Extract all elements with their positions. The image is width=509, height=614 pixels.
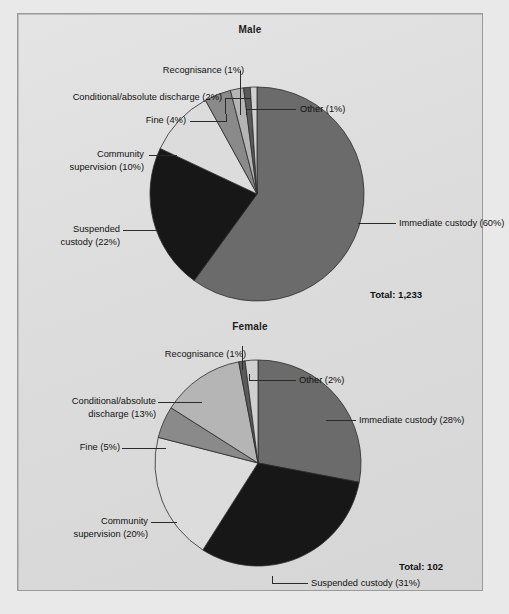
female-total: Total: 102 xyxy=(399,561,443,572)
male-chart-panel: Male Recognisance (1%) Conditional/absol… xyxy=(18,14,482,314)
male-leader-suspended xyxy=(123,230,157,231)
female-label-immediate: Immediate custody (28%) xyxy=(359,414,489,427)
male-leader-other-h xyxy=(246,109,296,110)
female-pie-svg xyxy=(154,359,362,567)
male-label-suspended-line2: custody (22%) xyxy=(61,237,120,247)
female-label-fine: Fine (5%) xyxy=(50,441,120,454)
male-leader-other-v xyxy=(246,109,247,115)
male-leader-community xyxy=(149,155,177,156)
female-leader-other-h xyxy=(249,380,296,381)
male-label-community-line2: supervision (10%) xyxy=(70,162,144,172)
female-label-conditional: Conditional/absolute discharge (13%) xyxy=(38,395,156,420)
female-label-community: Community supervision (20%) xyxy=(46,515,148,540)
male-leader-conditional-h xyxy=(225,98,251,99)
male-label-suspended: Suspended custody (22%) xyxy=(34,223,120,248)
female-label-community-line2: supervision (20%) xyxy=(74,529,148,539)
female-chart-panel: Female Recognisance (1%) Other (2%) Cond… xyxy=(18,314,482,590)
male-label-recognisance: Recognisance (1%) xyxy=(126,64,244,77)
female-leader-suspended-h xyxy=(272,583,308,584)
male-label-fine: Fine (4%) xyxy=(108,114,186,127)
female-chart-title: Female xyxy=(18,321,482,332)
female-label-other: Other (2%) xyxy=(299,374,409,387)
male-leader-fine-h xyxy=(190,121,226,122)
male-leader-immediate xyxy=(358,223,396,224)
male-leader-conditional-v xyxy=(225,98,226,114)
male-label-suspended-line1: Suspended xyxy=(73,224,120,234)
female-label-recognisance: Recognisance (1%) xyxy=(128,348,246,361)
male-label-community: Community supervision (10%) xyxy=(46,148,144,173)
male-label-conditional: Conditional/absolute discharge (2%) xyxy=(38,91,222,104)
male-label-other: Other (1%) xyxy=(300,103,410,116)
female-pie xyxy=(154,359,362,567)
female-leader-community xyxy=(151,522,177,523)
female-label-conditional-line1: Conditional/absolute xyxy=(72,396,156,406)
female-label-community-line1: Community xyxy=(101,516,148,526)
female-leader-other-v xyxy=(249,374,250,381)
male-total: Total: 1,233 xyxy=(370,289,422,300)
female-label-conditional-line2: discharge (13%) xyxy=(88,409,156,419)
male-label-community-line1: Community xyxy=(97,149,144,159)
male-label-immediate: Immediate custody (60%) xyxy=(399,217,509,230)
male-leader-fine-v xyxy=(226,114,227,122)
male-chart-title: Male xyxy=(18,24,482,35)
female-label-suspended: Suspended custody (31%) xyxy=(311,577,451,590)
female-leader-fine xyxy=(122,448,166,449)
female-leader-immediate xyxy=(326,420,356,421)
male-leader-recognisance xyxy=(240,71,241,115)
figure-panel: Male Recognisance (1%) Conditional/absol… xyxy=(17,13,483,591)
female-leader-conditional xyxy=(158,402,202,403)
female-leader-suspended-v xyxy=(272,576,273,584)
